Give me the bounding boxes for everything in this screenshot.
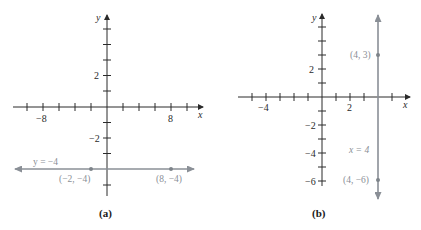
point-label-neg2-neg4: (−2, −4)	[59, 174, 90, 185]
caption-b: (b)	[312, 207, 326, 220]
y-tick-label-2: 2	[94, 70, 99, 81]
x-tick-label-neg8: −8	[36, 113, 47, 124]
point-label-8-neg4: (8, −4)	[156, 174, 182, 185]
y-tick-label-neg6b: −6	[305, 176, 316, 187]
x-tick-label-neg4: −4	[258, 102, 269, 113]
x-tick-label-2: 2	[347, 102, 352, 113]
x-tick-label-8: 8	[168, 113, 173, 124]
x-axis-label-a: x	[197, 109, 203, 120]
point-8-neg4	[169, 167, 173, 171]
graph-a: y x −8 8 2 −2 y = −4 (−2, −4) (8, −4) (a…	[13, 12, 203, 220]
figure: y x −8 8 2 −2 y = −4 (−2, −4) (8, −4) (a…	[0, 0, 421, 230]
point-label-4-3: (4, 3)	[350, 50, 371, 61]
line-label-b: x = 4	[348, 145, 369, 155]
y-tick-label-neg4b: −4	[305, 148, 316, 159]
y-tick-label-neg2: −2	[89, 133, 100, 144]
point-neg2-neg4	[89, 167, 93, 171]
y-axis-label-a: y	[95, 12, 101, 23]
point-4-3	[376, 53, 380, 57]
point-4-neg6	[376, 178, 380, 182]
y-axis-label-b: y	[311, 12, 317, 23]
caption-a: (a)	[99, 207, 112, 220]
point-label-4-neg6: (4, −6)	[343, 175, 369, 186]
y-tick-label-neg2b: −2	[305, 120, 316, 131]
graph-b: y x −4 2 2 −2 −4 −6 (4, 3) x = 4 (4, −6)…	[238, 12, 410, 220]
line-label-a: y = −4	[33, 157, 58, 167]
x-axis-label-b: x	[402, 99, 408, 110]
y-tick-label-2b: 2	[309, 64, 314, 75]
